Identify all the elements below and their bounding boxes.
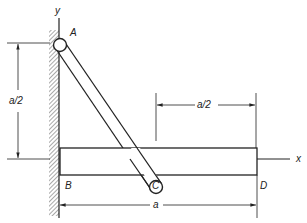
- y-axis-label: y: [54, 5, 61, 16]
- dimension-bottom-label: a: [153, 199, 159, 210]
- rod-bar-diagram: y x A B C D a/2 a/2 a: [0, 0, 307, 223]
- point-b-label: B: [65, 180, 72, 191]
- dimension-left-label: a/2: [9, 95, 23, 106]
- bar-bd: [60, 148, 257, 175]
- point-d-label: D: [260, 180, 267, 191]
- joint-a: [54, 39, 67, 52]
- wall-hatching: [49, 30, 59, 216]
- x-axis-label: x: [295, 153, 302, 164]
- dimension-top-label: a/2: [197, 99, 211, 110]
- point-c-label: C: [152, 180, 160, 191]
- point-a-label: A: [69, 27, 77, 38]
